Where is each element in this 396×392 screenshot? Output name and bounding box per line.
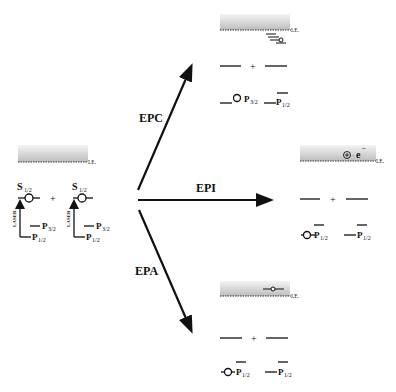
svg-text:+: + [251,333,257,344]
laser-label: LASER [12,210,17,227]
svg-text:+: + [250,61,256,72]
epi-label: EPI [196,181,216,195]
epc-arrow [138,67,191,190]
epa-label: EPA [135,264,158,278]
epc-panel: I.E. + P 3/2 P 1/2 [220,14,300,108]
electron-label: e [356,149,361,160]
svg-text:1/2: 1/2 [242,372,250,378]
ionization-continuum [18,145,88,162]
electron-circle-icon [225,369,232,376]
ie-label: I.E. [88,159,97,165]
atom-1: S 1/2 LASER P 3/2 P 1/2 [12,181,56,243]
svg-text:3/2: 3/2 [48,226,56,232]
svg-text:1/2: 1/2 [320,235,328,241]
ionization-continuum [220,14,290,30]
ie-label: I.E. [291,27,300,33]
electron-circle-icon [234,95,241,102]
svg-text:LASER: LASER [66,210,71,227]
epi-panel: I.E. · e − + P 1/2 P 1/2 [300,145,385,241]
epc-label: EPC [139,111,163,125]
electron-circle-icon [78,194,86,202]
initial-state: I.E. S 1/2 LASER P 3/2 P 1/2 + S 1/2 LAS… [12,145,110,243]
svg-text:S: S [72,181,78,192]
electron-circle-icon [304,232,311,239]
svg-text:3/2: 3/2 [250,99,258,105]
svg-text:1/2: 1/2 [79,187,87,193]
svg-text:1/2: 1/2 [92,237,100,243]
svg-text:+: + [330,194,336,205]
svg-text:−: − [362,145,366,153]
plus-sign: + [50,193,56,204]
svg-text:1/2: 1/2 [284,372,292,378]
svg-text:1/2: 1/2 [363,235,371,241]
atom-2: S 1/2 LASER P 3/2 P 1/2 [66,181,110,243]
electron-circle-icon [271,287,275,291]
svg-text:1/2: 1/2 [38,237,46,243]
energy-diagram: I.E. S 1/2 LASER P 3/2 P 1/2 + S 1/2 LAS… [0,0,396,392]
svg-text:1/2: 1/2 [24,187,32,193]
svg-text:1/2: 1/2 [282,102,290,108]
svg-text:3/2: 3/2 [102,226,110,232]
s-level-label: S [17,181,23,192]
ie-label: I.E. [291,293,300,299]
ie-label: I.E. [376,158,385,164]
electron-circle-icon [25,194,33,202]
electron-capture-icon [266,34,286,43]
epa-panel: I.E. + P 1/2 P 1/2 [220,281,300,378]
